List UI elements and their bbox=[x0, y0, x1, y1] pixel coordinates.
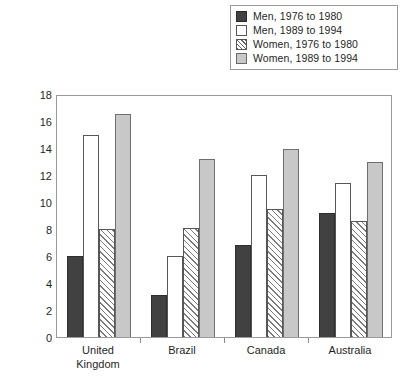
bar bbox=[151, 295, 167, 337]
bar bbox=[183, 228, 199, 337]
y-axis-tick-label: 16 bbox=[30, 117, 52, 128]
legend-label: Women, 1989 to 1994 bbox=[253, 53, 358, 64]
legend-item: Women, 1989 to 1994 bbox=[236, 52, 392, 65]
legend-label: Women, 1976 to 1980 bbox=[253, 39, 358, 50]
legend-label: Men, 1989 to 1994 bbox=[253, 25, 342, 36]
bar bbox=[335, 183, 351, 337]
bar-cluster bbox=[67, 96, 131, 337]
bar-cluster bbox=[319, 96, 383, 337]
plot-area bbox=[56, 95, 392, 338]
bar bbox=[283, 149, 299, 337]
bar bbox=[251, 175, 267, 337]
y-axis-tick-label: 10 bbox=[30, 198, 52, 209]
legend-item: Men, 1976 to 1980 bbox=[236, 10, 392, 23]
y-axis-tick-label: 4 bbox=[30, 279, 52, 290]
bar-group bbox=[309, 96, 393, 337]
bar bbox=[115, 114, 131, 337]
y-axis-tick-label: 2 bbox=[30, 306, 52, 317]
bars-container bbox=[57, 96, 391, 337]
bar-group bbox=[141, 96, 225, 337]
legend-item: Men, 1989 to 1994 bbox=[236, 24, 392, 37]
y-axis-tick-label: 12 bbox=[30, 171, 52, 182]
legend-swatch-women-1989-1994-icon bbox=[236, 53, 247, 64]
bar bbox=[367, 162, 383, 338]
y-axis-tick-label: 14 bbox=[30, 144, 52, 155]
bar bbox=[199, 159, 215, 337]
bar-cluster bbox=[235, 96, 299, 337]
bar bbox=[319, 213, 335, 337]
bar bbox=[167, 256, 183, 337]
y-axis-tick-label: 0 bbox=[30, 333, 52, 344]
bar-group bbox=[57, 96, 141, 337]
y-axis-tick-label: 18 bbox=[30, 90, 52, 101]
y-axis-tick-label: 8 bbox=[30, 225, 52, 236]
bar bbox=[67, 256, 83, 337]
bar bbox=[351, 221, 367, 337]
y-axis-tick-label: 6 bbox=[30, 252, 52, 263]
legend-label: Men, 1976 to 1980 bbox=[253, 11, 342, 22]
bar-cluster bbox=[151, 96, 215, 337]
x-axis-tick-labels: United KingdomBrazilCanadaAustralia bbox=[56, 343, 392, 377]
legend-item: Women, 1976 to 1980 bbox=[236, 38, 392, 51]
legend-swatch-women-1976-1980-icon bbox=[236, 39, 247, 50]
bar bbox=[83, 135, 99, 338]
y-axis-tick-labels: 024681012141618 bbox=[28, 95, 52, 338]
bar-group bbox=[225, 96, 309, 337]
bar bbox=[267, 209, 283, 337]
chart-legend: Men, 1976 to 1980 Men, 1989 to 1994 Wome… bbox=[230, 5, 398, 70]
bar bbox=[99, 229, 115, 337]
x-axis-tick-label: Australia bbox=[298, 343, 402, 357]
bar bbox=[235, 245, 251, 337]
legend-swatch-men-1989-1994-icon bbox=[236, 25, 247, 36]
legend-swatch-men-1976-1980-icon bbox=[236, 11, 247, 22]
